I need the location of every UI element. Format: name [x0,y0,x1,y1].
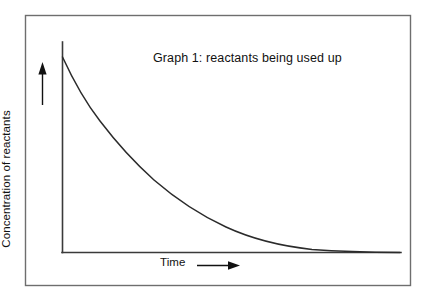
chart-canvas [0,0,436,300]
y-axis-label: Concentration of reactants [0,104,12,254]
chart-title: Graph 1: reactants being used up [153,51,342,65]
chart-figure: Graph 1: reactants being used up Concent… [0,0,436,300]
x-axis-label: Time [160,256,186,268]
